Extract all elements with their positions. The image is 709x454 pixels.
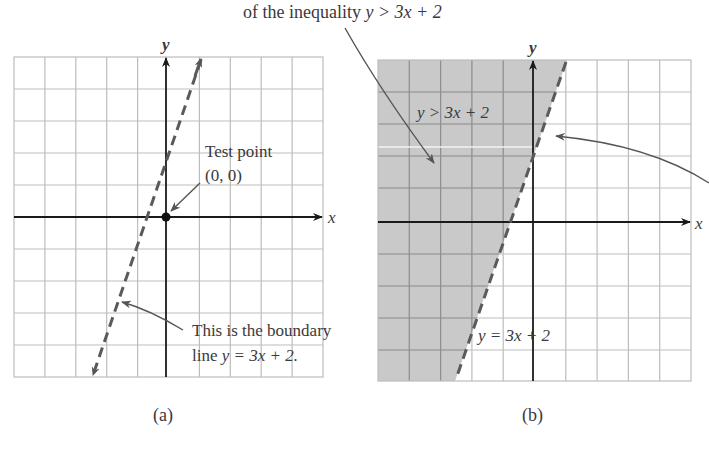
- graph-a-boundary-line-top-arrow: [195, 59, 201, 76]
- test-point-coords: (0, 0): [205, 166, 242, 185]
- top-caption: of the inequality y > 3x + 2: [243, 2, 442, 22]
- boundary-note-line2: line y = 3x + 2.: [192, 346, 298, 365]
- graph-b-x-label: x: [694, 214, 703, 233]
- region-label: y > 3x + 2: [415, 103, 490, 122]
- graph-b-y-label: y: [527, 38, 537, 57]
- boundary-note-arrow: [122, 302, 183, 330]
- graph-a-x-label: x: [327, 208, 336, 227]
- graph-a: x y Test point (0, 0) This is the bounda…: [14, 35, 336, 426]
- test-point-dot: [162, 213, 171, 222]
- test-point-label: Test point: [205, 142, 273, 161]
- boundary-pointer-arrow: [556, 136, 709, 183]
- boundary-line-label: y = 3x + 2: [476, 326, 551, 345]
- test-point-arrow: [171, 183, 200, 211]
- boundary-note-line1: This is the boundary: [192, 321, 332, 340]
- graph-b-caption: (b): [522, 405, 543, 426]
- figure-canvas: x y Test point (0, 0) This is the bounda…: [0, 0, 709, 454]
- graph-a-caption: (a): [153, 405, 173, 426]
- graph-b: x y y > 3x + 2 y = 3x + 2 (b): [378, 38, 709, 426]
- graph-a-y-label: y: [160, 35, 170, 54]
